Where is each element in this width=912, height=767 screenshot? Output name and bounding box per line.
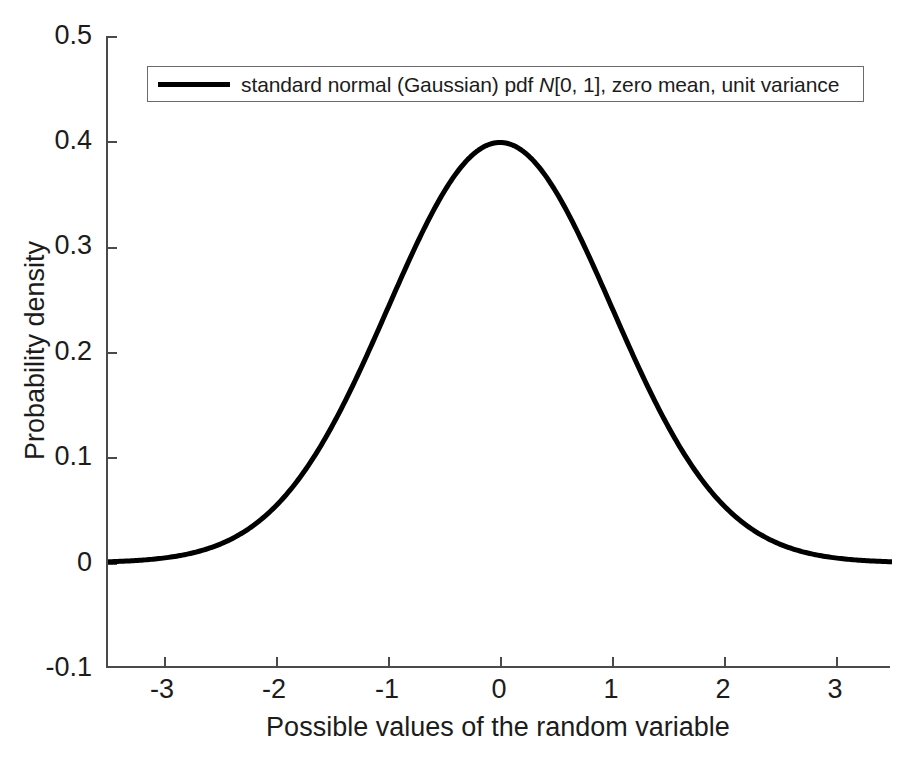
y-tick-label: 0 (0, 549, 92, 576)
chart-figure: 0.5 0.4 0.3 0.2 0.1 0 -0.1 -3 -2 -1 0 1 … (0, 0, 912, 767)
x-tick-label: 1 (571, 676, 651, 703)
y-tick-label: 0.4 (0, 127, 92, 154)
x-tick-label: -2 (234, 676, 314, 703)
gaussian-curve-path (108, 142, 892, 561)
legend-label-variable: N (539, 73, 554, 96)
y-tick-label: 0.5 (0, 22, 92, 49)
x-tick-label: 3 (795, 676, 875, 703)
y-axis-title: Probability density (22, 186, 49, 516)
legend[interactable]: standard normal (Gaussian) pdf N[0, 1], … (147, 66, 864, 102)
x-tick-label: 2 (683, 676, 763, 703)
x-axis-title: Possible values of the random variable (106, 714, 890, 741)
x-tick-label: -1 (347, 676, 427, 703)
legend-label-suffix: [0, 1], zero mean, unit variance (554, 73, 839, 96)
y-tick-label: -0.1 (0, 654, 92, 681)
legend-line-swatch-icon (158, 82, 230, 87)
x-tick-label: 0 (459, 676, 539, 703)
gaussian-curve (108, 36, 892, 668)
x-tick-label: -3 (122, 676, 202, 703)
legend-entry-label: standard normal (Gaussian) pdf N[0, 1], … (241, 74, 863, 95)
legend-label-prefix: standard normal (Gaussian) pdf (241, 73, 539, 96)
plot-area: standard normal (Gaussian) pdf N[0, 1], … (106, 36, 890, 668)
